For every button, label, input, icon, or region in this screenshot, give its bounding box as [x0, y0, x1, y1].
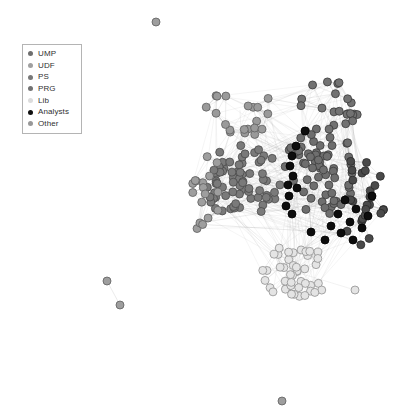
graph-node-other	[214, 188, 222, 196]
graph-node-prg	[325, 125, 333, 133]
graph-node-analysts	[346, 218, 354, 226]
graph-node-lib	[259, 266, 267, 274]
graph-node-ump	[307, 194, 315, 202]
graph-node-other	[214, 206, 222, 214]
graph-node-analysts	[285, 192, 293, 200]
graph-node-ump	[301, 160, 309, 168]
graph-node-udf	[251, 124, 259, 132]
graph-node-ump	[297, 134, 305, 142]
graph-node-analysts	[337, 229, 345, 237]
graph-node-prg	[357, 241, 365, 249]
legend-box: UMPUDFPSPRGLibAnalystsOther	[22, 44, 82, 134]
legend-swatch-icon	[28, 110, 33, 115]
graph-node-ps	[236, 168, 244, 176]
graph-node-prg	[349, 117, 357, 125]
graph-node-other	[189, 189, 197, 197]
legend-item-label: PS	[38, 71, 49, 83]
graph-node-prg	[335, 79, 343, 87]
graph-node-ump	[306, 153, 314, 161]
graph-node-analysts	[307, 228, 315, 236]
graph-node-prg	[318, 104, 326, 112]
graph-node-other	[203, 153, 211, 161]
graph-node-prg	[323, 78, 331, 86]
graph-node-ump	[323, 152, 331, 160]
legend-item-ump: UMP	[28, 48, 77, 60]
graph-node-lib	[311, 288, 319, 296]
graph-node-ump	[319, 166, 327, 174]
graph-node-analysts	[289, 172, 297, 180]
legend-item-label: Lib	[38, 95, 49, 107]
graph-node-udf	[213, 92, 221, 100]
graph-node-ps	[237, 142, 245, 150]
graph-node-analysts	[341, 196, 349, 204]
graph-node-analysts	[284, 181, 292, 189]
graph-node-analysts	[364, 212, 372, 220]
graph-node-isolated	[103, 277, 111, 285]
legend-item-other: Other	[28, 118, 77, 130]
legend-swatch-icon	[28, 121, 33, 126]
graph-node-prg	[331, 90, 339, 98]
graph-node-ps	[226, 158, 234, 166]
graph-node-analysts	[286, 162, 294, 170]
graph-node-lib	[301, 291, 309, 299]
graph-node-other	[206, 172, 214, 180]
graph-node-ump	[344, 139, 352, 147]
network-graph-figure: UMPUDFPSPRGLibAnalystsOther	[0, 0, 413, 417]
graph-node-udf	[222, 92, 230, 100]
graph-node-ump	[326, 133, 334, 141]
graph-node-other	[198, 198, 206, 206]
graph-node-ump	[314, 173, 322, 181]
graph-node-ump	[331, 174, 339, 182]
graph-node-isolated	[351, 286, 359, 294]
graph-node-isolated	[278, 397, 286, 405]
graph-node-ump	[303, 176, 311, 184]
legend-item-label: UDF	[38, 60, 55, 72]
graph-node-ps	[268, 154, 276, 162]
graph-node-prg	[377, 209, 385, 217]
graph-node-ump	[326, 209, 334, 217]
graph-node-lib	[270, 250, 278, 258]
graph-node-ps	[257, 156, 265, 164]
graph-node-ump	[325, 181, 333, 189]
graph-node-ps	[216, 148, 224, 156]
graph-node-ps	[239, 179, 247, 187]
graph-node-ps	[229, 188, 237, 196]
graph-node-analysts	[327, 222, 335, 230]
graph-node-ps	[241, 150, 249, 158]
graph-node-udf	[264, 110, 272, 118]
graph-node-analysts	[288, 152, 296, 160]
legend-swatch-icon	[28, 86, 33, 91]
graph-node-analysts	[293, 184, 301, 192]
graph-node-lib	[301, 265, 309, 273]
graph-node-ps	[258, 170, 266, 178]
graph-node-ps	[256, 187, 264, 195]
graph-node-ps	[246, 170, 254, 178]
graph-node-lib	[269, 288, 277, 296]
legend-swatch-icon	[28, 75, 33, 80]
graph-node-analysts	[292, 142, 300, 150]
graph-node-lib	[261, 276, 269, 284]
graph-node-prg	[346, 110, 354, 118]
graph-node-analysts	[368, 192, 376, 200]
legend-swatch-icon	[28, 51, 33, 56]
graph-node-analysts	[321, 236, 329, 244]
graph-node-ps	[235, 161, 243, 169]
graph-node-ps	[245, 185, 253, 193]
graph-node-lib	[314, 254, 322, 262]
graph-node-ps	[229, 178, 237, 186]
legend-item-analysts: Analysts	[28, 106, 77, 118]
graph-edge	[217, 85, 313, 96]
graph-node-ps	[232, 200, 240, 208]
graph-node-prg	[347, 157, 355, 165]
graph-node-analysts	[358, 224, 366, 232]
graph-node-lib	[288, 290, 296, 298]
graph-node-ump	[309, 164, 317, 172]
graph-node-udf	[244, 102, 252, 110]
graph-node-lib	[292, 263, 300, 271]
graph-node-isolated	[152, 18, 160, 26]
graph-node-ps	[213, 180, 221, 188]
graph-node-analysts	[352, 205, 360, 213]
graph-node-other	[191, 177, 199, 185]
graph-node-udf	[202, 103, 210, 111]
graph-node-ump	[328, 189, 336, 197]
